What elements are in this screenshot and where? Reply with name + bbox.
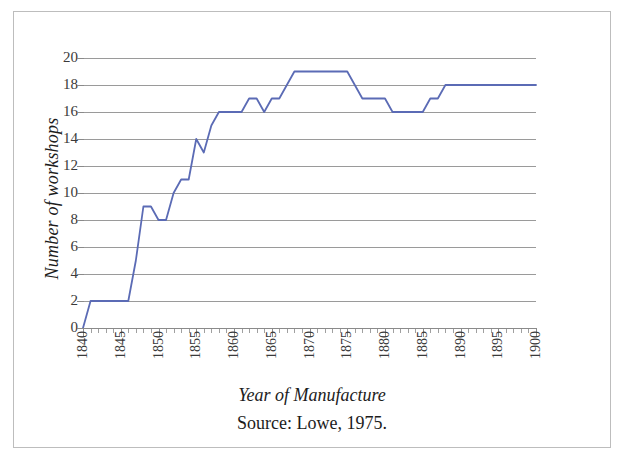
workshops-series-line <box>83 72 536 329</box>
x-axis-tick-label: 1870 <box>303 323 317 367</box>
y-axis-tick <box>77 166 84 167</box>
y-axis-tick-label: 4 <box>38 266 78 281</box>
y-axis-tick <box>77 301 84 302</box>
x-axis-tick-minor <box>362 329 363 333</box>
x-axis-tick-label: 1845 <box>114 323 128 367</box>
y-axis-tick-label: 18 <box>38 77 78 92</box>
y-axis-tick-label: 8 <box>38 212 78 227</box>
y-axis-tick <box>77 139 84 140</box>
x-axis-tick-minor <box>468 329 469 333</box>
source-caption: Source: Lowe, 1975. <box>0 413 624 434</box>
y-axis-tick-label: 6 <box>38 239 78 254</box>
x-axis-tick-minor <box>294 329 295 333</box>
y-axis-tick <box>77 274 84 275</box>
x-axis-tick-minor <box>242 329 243 333</box>
x-axis-tick-label: 1900 <box>529 323 543 367</box>
x-axis-tick-label: 1860 <box>227 323 241 367</box>
x-axis-tick-minor <box>430 329 431 333</box>
x-axis-tick-minor <box>174 329 175 333</box>
x-axis-tick-minor <box>257 329 258 333</box>
y-axis-tick <box>77 193 84 194</box>
x-axis-tick-label: 1885 <box>416 323 430 367</box>
x-axis-tick-minor <box>219 329 220 333</box>
x-axis-tick-minor <box>136 329 137 333</box>
x-axis-tick-minor <box>445 329 446 333</box>
figure-container: Number of workshops 02468101214161820 18… <box>0 0 624 460</box>
x-axis-tick-minor <box>483 329 484 333</box>
x-axis-tick-minor <box>287 329 288 333</box>
x-axis-tick-minor <box>106 329 107 333</box>
y-axis-tick <box>77 247 84 248</box>
x-axis-tick-minor <box>332 329 333 333</box>
x-axis-tick-label: 1875 <box>340 323 354 367</box>
y-axis-tick-label: 16 <box>38 104 78 119</box>
x-axis-tick-minor <box>317 329 318 333</box>
x-axis-tick-minor <box>279 329 280 333</box>
x-axis-tick-minor <box>128 329 129 333</box>
x-axis-tick-label: 1890 <box>454 323 468 367</box>
x-axis-tick-minor <box>393 329 394 333</box>
y-axis-tick-label: 10 <box>38 185 78 200</box>
y-axis-tick <box>77 58 84 59</box>
x-axis-tick-minor <box>506 329 507 333</box>
x-axis-tick-minor <box>513 329 514 333</box>
y-axis-tick-label: 0 <box>38 320 78 335</box>
x-axis-tick-minor <box>438 329 439 333</box>
y-axis-tick-label: 2 <box>38 293 78 308</box>
x-axis-tick-minor <box>98 329 99 333</box>
y-axis-tick-label: 20 <box>38 50 78 65</box>
x-axis-tick-label: 1880 <box>378 323 392 367</box>
x-axis-tick-minor <box>166 329 167 333</box>
x-axis-title: Year of Manufacture <box>0 385 624 406</box>
y-axis-tick-label: 12 <box>38 158 78 173</box>
x-axis-tick-minor <box>181 329 182 333</box>
x-axis-tick-label: 1895 <box>491 323 505 367</box>
y-axis-tick <box>77 328 84 329</box>
x-axis-tick-minor <box>476 329 477 333</box>
y-axis-tick <box>77 112 84 113</box>
x-axis-tick-minor <box>249 329 250 333</box>
x-axis-tick-label: 1850 <box>152 323 166 367</box>
x-axis-tick-minor <box>370 329 371 333</box>
x-axis-tick-minor <box>408 329 409 333</box>
x-axis-tick-minor <box>143 329 144 333</box>
x-axis-tick-minor <box>204 329 205 333</box>
x-axis-tick-label: 1865 <box>265 323 279 367</box>
x-axis-tick-label: 1840 <box>76 323 90 367</box>
y-axis-tick-label: 14 <box>38 131 78 146</box>
series-line-chart <box>83 58 536 328</box>
x-axis-tick-minor <box>521 329 522 333</box>
x-axis-tick-minor <box>325 329 326 333</box>
x-axis-tick-minor <box>400 329 401 333</box>
x-axis-tick-minor <box>91 329 92 333</box>
y-axis-tick <box>77 220 84 221</box>
x-axis-tick-label: 1855 <box>189 323 203 367</box>
plot-area <box>83 58 536 328</box>
x-axis-tick-labels: 1840184518501855186018651870187518801885… <box>83 338 537 382</box>
y-axis-tick <box>77 85 84 86</box>
x-axis-tick-minor <box>355 329 356 333</box>
x-axis-tick-minor <box>211 329 212 333</box>
